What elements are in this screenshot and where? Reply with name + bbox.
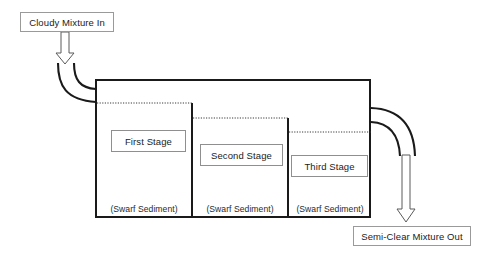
sediment-label-third-text: (Swarf Sediment)	[296, 204, 363, 214]
outlet-flow-arrow	[397, 155, 415, 222]
sediment-label-second: (Swarf Sediment)	[196, 202, 284, 215]
sediment-label-first: (Swarf Sediment)	[100, 202, 188, 215]
inlet-pipe-outer-curve	[58, 63, 96, 102]
inlet-label-text: Cloudy Mixture In	[29, 17, 105, 28]
inlet-flow-arrow	[56, 32, 74, 64]
sediment-label-third: (Swarf Sediment)	[286, 202, 374, 215]
stage-label-second: Second Stage	[211, 150, 272, 161]
outlet-label-box: Semi-Clear Mixture Out	[353, 226, 471, 246]
inlet-label-box: Cloudy Mixture In	[20, 12, 114, 32]
stage-label-first: First Stage	[125, 136, 172, 147]
stage-box-second: Second Stage	[200, 144, 283, 166]
outlet-pipe-inner-curve	[371, 122, 400, 156]
diagram-vector-layer	[0, 0, 478, 259]
settling-tank-diagram: Cloudy Mixture In Semi-Clear Mixture Out…	[0, 0, 478, 259]
stage-box-first: First Stage	[111, 130, 186, 152]
inlet-pipe-inner-curve	[74, 63, 96, 89]
outlet-label-text: Semi-Clear Mixture Out	[361, 231, 462, 242]
stage-box-third: Third Stage	[291, 155, 368, 177]
sediment-label-second-text: (Swarf Sediment)	[206, 204, 273, 214]
stage-label-third: Third Stage	[304, 161, 354, 172]
sediment-label-first-text: (Swarf Sediment)	[110, 204, 177, 214]
